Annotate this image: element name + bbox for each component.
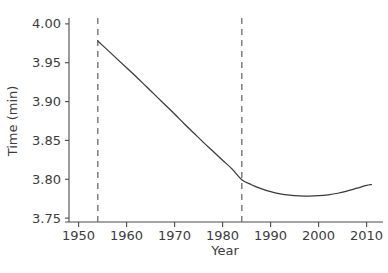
chart-container: 3.753.803.853.903.954.001950196019701980…	[0, 0, 388, 273]
x-axis-tick-label: 1960	[110, 228, 143, 243]
x-axis-tick-label: 1970	[158, 228, 191, 243]
y-axis-tick-label: 3.90	[32, 94, 61, 109]
line-chart: 3.753.803.853.903.954.001950196019701980…	[0, 0, 388, 273]
x-axis-tick-label: 1950	[62, 228, 95, 243]
y-axis-tick-label: 3.95	[32, 55, 61, 70]
x-axis-title: Year	[210, 243, 239, 258]
y-axis-title: Time (min)	[5, 86, 20, 158]
y-axis-tick-label: 3.80	[32, 172, 61, 187]
data-series-line	[98, 41, 372, 196]
y-axis-tick-label: 3.85	[32, 133, 61, 148]
x-axis-tick-label: 1980	[206, 228, 239, 243]
x-axis-tick-label: 2010	[350, 228, 383, 243]
y-axis-tick-label: 4.00	[32, 16, 61, 31]
y-axis-tick-label: 3.75	[32, 211, 61, 226]
x-axis-tick-label: 2000	[302, 228, 335, 243]
x-axis-tick-label: 1990	[254, 228, 287, 243]
